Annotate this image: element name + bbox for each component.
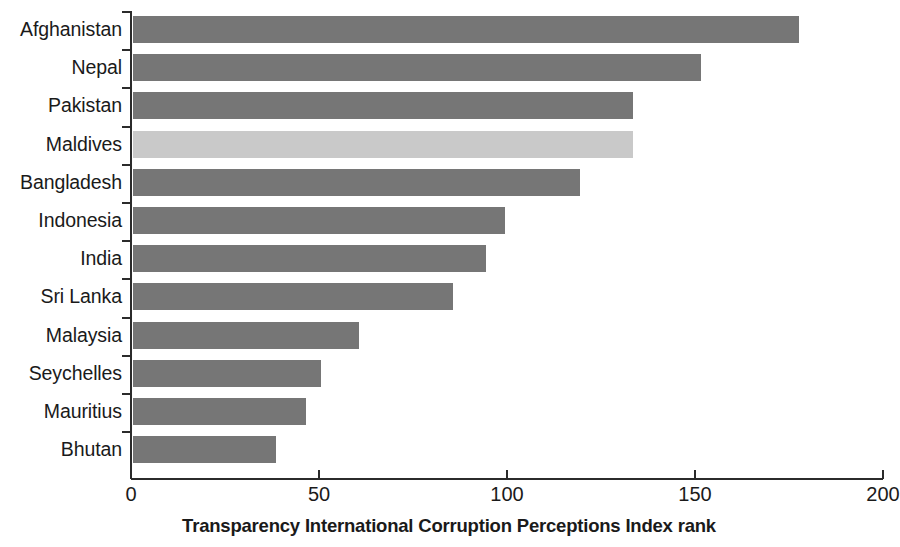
bar-row: Pakistan (0, 87, 898, 125)
bar (133, 322, 359, 349)
y-axis-tick (122, 164, 131, 166)
bar (133, 245, 486, 272)
x-axis-tick-label: 150 (678, 484, 711, 504)
bar (133, 360, 321, 387)
x-axis-tick-label: 100 (490, 484, 523, 504)
x-axis-tick (694, 470, 696, 479)
bar (133, 436, 276, 463)
y-axis-tick (122, 278, 131, 280)
y-axis-tick (122, 87, 131, 89)
y-axis-tick (122, 431, 131, 433)
bar-row: Nepal (0, 49, 898, 87)
category-label: Maldives (46, 135, 122, 155)
x-axis-title: Transparency International Corruption Pe… (0, 515, 898, 537)
y-axis-tick (122, 240, 131, 242)
y-axis-tick (122, 317, 131, 319)
category-label: Malaysia (46, 326, 122, 346)
bar (133, 54, 701, 81)
x-axis-tick-label: 50 (308, 484, 330, 504)
category-label: Nepal (72, 58, 122, 78)
bar-row: Seychelles (0, 355, 898, 393)
category-label: Bhutan (61, 440, 122, 460)
bar-row: Mauritius (0, 393, 898, 431)
bar (133, 131, 633, 158)
category-label: India (80, 249, 122, 269)
bar (133, 92, 633, 119)
y-axis-tick (122, 355, 131, 357)
bar-row: India (0, 240, 898, 278)
bar-row: Indonesia (0, 202, 898, 240)
bar (133, 169, 580, 196)
bar (133, 283, 453, 310)
category-label: Mauritius (44, 402, 122, 422)
y-axis-tick (122, 393, 131, 395)
x-axis-tick-label: 200 (866, 484, 899, 504)
x-axis-tick (130, 470, 132, 479)
category-label: Sri Lanka (41, 288, 122, 308)
category-label: Indonesia (38, 211, 122, 231)
x-axis-tick (318, 470, 320, 479)
x-axis-tick (882, 470, 884, 479)
bar (133, 207, 505, 234)
y-axis-tick (122, 49, 131, 51)
bar-row: Bangladesh (0, 164, 898, 202)
y-axis-tick (122, 202, 131, 204)
bar-row: Maldives (0, 126, 898, 164)
category-label: Seychelles (29, 364, 122, 384)
y-axis-tick (122, 126, 131, 128)
x-axis-tick (506, 470, 508, 479)
y-axis-tick (122, 11, 131, 13)
bar-rows: AfghanistanNepalPakistanMaldivesBanglade… (0, 0, 898, 479)
bar-row: Afghanistan (0, 11, 898, 49)
category-label: Bangladesh (20, 173, 122, 193)
bar-row: Malaysia (0, 317, 898, 355)
bar (133, 398, 306, 425)
x-axis-tick-label: 0 (125, 484, 136, 504)
category-label: Afghanistan (20, 20, 122, 40)
bar (133, 16, 799, 43)
bar-row: Sri Lanka (0, 278, 898, 316)
bar-row: Bhutan (0, 431, 898, 469)
category-label: Pakistan (48, 97, 122, 117)
